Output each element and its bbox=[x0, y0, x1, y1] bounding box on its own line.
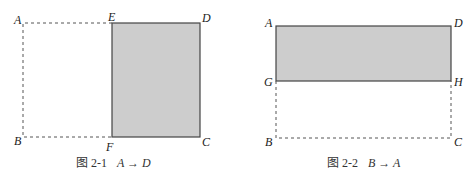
figure-2-1: A E D B F C 图 2-1A → D bbox=[13, 10, 211, 170]
point-label-b: B bbox=[265, 135, 273, 149]
point-label-d: D bbox=[201, 11, 211, 25]
point-label-h: H bbox=[453, 75, 464, 89]
point-label-e: E bbox=[107, 10, 116, 24]
shaded-rect-edcf bbox=[112, 23, 200, 137]
shaded-rect-adhg bbox=[276, 26, 451, 81]
caption-expr: A → D bbox=[116, 156, 151, 170]
point-label-b: B bbox=[14, 134, 22, 148]
point-label-a: A bbox=[13, 13, 22, 27]
point-label-d: D bbox=[453, 16, 463, 30]
figure-caption-2-1: 图 2-1A → D bbox=[76, 156, 151, 170]
point-label-f: F bbox=[105, 140, 114, 154]
caption-label: 图 2-2 bbox=[327, 156, 358, 170]
point-label-a: A bbox=[264, 16, 273, 30]
diagram-canvas: A E D B F C 图 2-1A → D A D G H B C 图 2-2… bbox=[0, 0, 476, 182]
dashed-rect-ghcb bbox=[276, 81, 451, 138]
dashed-rect-aefb bbox=[23, 23, 112, 137]
caption-label: 图 2-1 bbox=[76, 156, 107, 170]
caption-expr: B → A bbox=[368, 156, 401, 170]
figure-2-2: A D G H B C 图 2-2B → A bbox=[264, 16, 464, 170]
point-label-c: C bbox=[454, 135, 463, 149]
point-label-g: G bbox=[264, 75, 273, 89]
point-label-c: C bbox=[202, 135, 211, 149]
figure-caption-2-2: 图 2-2B → A bbox=[327, 156, 401, 170]
